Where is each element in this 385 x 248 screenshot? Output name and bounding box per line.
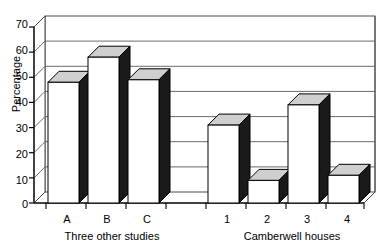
bar-2 <box>248 169 290 203</box>
bar-chart: Percentage 70 60 50 40 30 20 10 0 A B C … <box>0 0 385 248</box>
bar-1 <box>208 114 250 203</box>
bar-c <box>128 69 170 203</box>
bar-b <box>88 46 130 203</box>
bar-4 <box>328 164 370 203</box>
bar-3 <box>288 94 330 203</box>
bar-a <box>48 71 90 203</box>
axis-wall-group <box>29 16 45 203</box>
plot-area <box>0 0 385 248</box>
